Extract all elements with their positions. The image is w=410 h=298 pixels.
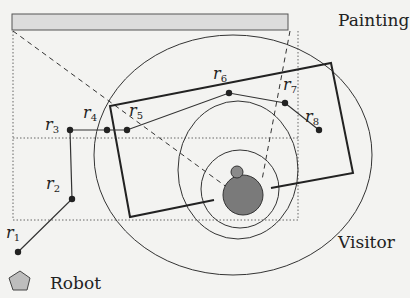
waypoint-label-r7: r7 bbox=[283, 77, 297, 95]
painting-bar bbox=[12, 14, 288, 30]
visitor-head bbox=[231, 166, 243, 178]
waypoint-label-r2: r2 bbox=[46, 176, 60, 194]
waypoint-label-r8: r8 bbox=[305, 109, 319, 127]
painting-label: Painting bbox=[338, 12, 409, 29]
visitor-body bbox=[223, 175, 263, 215]
waypoint-label-r4: r4 bbox=[83, 105, 97, 123]
waypoint-label-r6: r6 bbox=[213, 66, 227, 84]
waypoint-label-r5: r5 bbox=[129, 103, 143, 121]
waypoint-label-r1: r1 bbox=[6, 225, 20, 243]
diagram-canvas bbox=[0, 0, 410, 298]
robot-pentagon-icon bbox=[9, 271, 30, 290]
robot-label: Robot bbox=[50, 275, 101, 292]
waypoint-label-r3: r3 bbox=[45, 117, 59, 135]
visitor-label: Visitor bbox=[338, 234, 395, 251]
robot-path bbox=[18, 93, 319, 252]
